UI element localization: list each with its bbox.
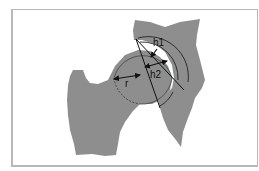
femur-shape bbox=[67, 50, 172, 156]
label-h2: h2 bbox=[150, 69, 162, 80]
label-h1: h1 bbox=[153, 37, 165, 48]
hip-diagram: h1 h2 r bbox=[0, 0, 259, 171]
